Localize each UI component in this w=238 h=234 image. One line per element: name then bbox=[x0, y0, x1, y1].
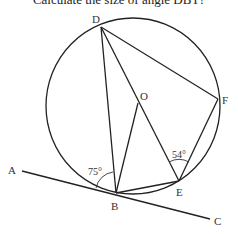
geometry-diagram: D O F B E A C 75° 54° bbox=[0, 0, 238, 234]
label-c: C bbox=[214, 215, 221, 227]
angle-label-b: 75° bbox=[88, 166, 102, 177]
label-a: A bbox=[8, 164, 16, 176]
label-f: F bbox=[222, 94, 228, 106]
circle bbox=[46, 18, 220, 194]
label-e: E bbox=[176, 186, 183, 198]
label-b: B bbox=[111, 200, 118, 212]
segment-ob bbox=[116, 103, 138, 193]
angle-label-e: 54° bbox=[172, 149, 186, 160]
label-d: D bbox=[92, 13, 100, 25]
label-o: O bbox=[140, 90, 148, 102]
segment-be bbox=[116, 181, 179, 193]
segment-fe bbox=[179, 99, 218, 181]
